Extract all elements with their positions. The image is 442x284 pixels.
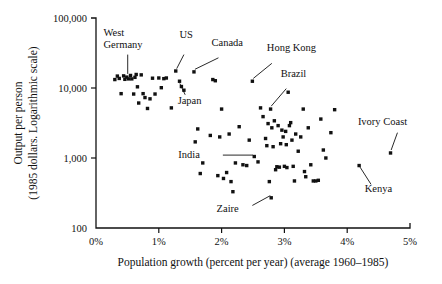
x-tick-label: 1%: [152, 236, 166, 247]
annotation-hong-kong: Hong Kong: [267, 42, 317, 53]
data-point: [322, 148, 325, 151]
data-point: [389, 151, 392, 154]
data-point: [276, 124, 279, 127]
data-point: [137, 101, 140, 104]
data-point: [270, 196, 273, 199]
data-point: [297, 150, 300, 153]
data-point: [281, 135, 284, 138]
annotation-us: US: [180, 29, 194, 40]
annotation-west-germany: WestGermany: [104, 27, 144, 50]
data-point: [294, 132, 297, 135]
data-point: [271, 145, 274, 148]
annotation-canada: Canada: [212, 37, 244, 48]
annotation-line: US: [180, 29, 194, 40]
data-point: [118, 77, 121, 80]
data-point: [285, 143, 288, 146]
data-point: [317, 179, 320, 182]
data-point: [284, 130, 287, 133]
hong-kong-leader: [253, 63, 272, 78]
y-axis-subtitle: (1985 dollars. Logarithmic scale): [27, 46, 40, 199]
data-point: [329, 131, 332, 134]
data-point: [266, 122, 269, 125]
data-point: [192, 70, 195, 73]
data-point: [153, 92, 156, 95]
canada-leader: [195, 58, 219, 70]
y-tick-labels: 1001,00010,000100,000: [53, 13, 87, 234]
data-point: [170, 106, 173, 109]
data-point: [253, 155, 256, 158]
data-point: [136, 85, 139, 88]
data-point: [143, 96, 146, 99]
annotation-line: Zaire: [217, 203, 239, 214]
data-point: [299, 135, 302, 138]
annotation-kenya: Kenya: [365, 183, 393, 194]
data-point: [157, 76, 160, 79]
data-point: [319, 117, 322, 120]
data-point: [122, 74, 125, 77]
data-point: [132, 92, 135, 95]
data-point: [269, 107, 272, 110]
data-point: [290, 138, 293, 141]
y-axis-title: Output per person: [12, 81, 25, 164]
annotation-line: West: [104, 27, 125, 38]
scatter-plot: 1001,00010,000100,000 0%1%2%3%4%5% WestG…: [0, 0, 442, 284]
data-point: [214, 79, 217, 82]
data-points: [113, 69, 392, 199]
data-point: [357, 164, 360, 167]
data-point: [134, 73, 137, 76]
data-point: [286, 91, 289, 94]
data-point: [234, 161, 237, 164]
data-point: [248, 138, 251, 141]
x-tick-label: 5%: [403, 236, 417, 247]
data-point: [303, 170, 306, 173]
x-axis-title: Population growth (percent per year) (av…: [118, 256, 389, 269]
y-tick-label: 10,000: [58, 83, 87, 94]
data-point: [216, 174, 219, 177]
data-point: [270, 126, 273, 129]
data-point: [130, 77, 133, 80]
data-point: [231, 190, 234, 193]
data-point: [304, 175, 307, 178]
data-point: [307, 126, 310, 129]
data-point: [127, 77, 130, 80]
data-point: [278, 165, 281, 168]
zaire-leader: [252, 196, 270, 206]
data-point: [273, 119, 276, 122]
data-point: [119, 92, 122, 95]
data-point: [148, 97, 151, 100]
data-point: [237, 125, 240, 128]
data-point: [174, 69, 177, 72]
ivory-coast-leader: [391, 133, 397, 150]
annotation-line: Ivory Coast: [358, 116, 407, 127]
data-point: [241, 163, 244, 166]
y-tick-label: 100,000: [53, 13, 87, 24]
data-point: [194, 140, 197, 143]
x-tick-labels: 0%1%2%3%4%5%: [89, 236, 417, 247]
x-tick-label: 0%: [89, 236, 103, 247]
data-point: [265, 144, 268, 147]
data-point: [264, 137, 267, 140]
annotation-japan: Japan: [178, 95, 203, 106]
data-point: [274, 168, 277, 171]
data-point: [218, 135, 221, 138]
annotation-line: Canada: [212, 37, 244, 48]
data-point: [280, 128, 283, 131]
data-point: [160, 86, 163, 89]
data-point: [268, 180, 271, 183]
data-point: [324, 156, 327, 159]
data-point: [209, 134, 212, 137]
data-point: [261, 115, 264, 118]
annotation-ivory-coast: Ivory Coast: [358, 116, 407, 127]
data-point: [291, 165, 294, 168]
data-point: [293, 179, 296, 182]
us-leader: [177, 55, 184, 69]
data-point: [129, 74, 132, 77]
annotation-line: Germany: [104, 39, 144, 50]
y-tick-label: 100: [71, 223, 87, 234]
data-point: [151, 77, 154, 80]
data-point: [196, 127, 199, 130]
data-point: [259, 106, 262, 109]
data-point: [279, 142, 282, 145]
data-point: [140, 73, 143, 76]
data-point: [225, 171, 228, 174]
